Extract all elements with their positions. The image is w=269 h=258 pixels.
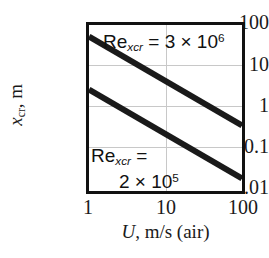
- x-tick-label-100: 100: [213, 197, 269, 217]
- annotation-re-subscript: xcr: [127, 40, 143, 53]
- annotation-re-subscript-2: xcr: [115, 154, 131, 167]
- x-tick-label-1: 1: [58, 197, 118, 217]
- annotation-re-3e6: Rexcr = 3 × 106: [103, 27, 225, 57]
- annotation-re-exponent: 6: [218, 31, 225, 44]
- annotation-re-equals: = 3 × 10: [143, 31, 218, 52]
- annotation-re-text-2: Re: [91, 145, 115, 166]
- x-tick-label-10: 10: [136, 197, 196, 217]
- plot-area: Rexcr = 3 × 106 Rexcr = 2 × 105: [86, 22, 245, 194]
- y-axis-label-symbol: x: [5, 117, 26, 125]
- x-axis-label-unit: , m/s (air): [135, 221, 209, 242]
- y-axis-label-unit: , m: [5, 84, 26, 108]
- chart-figure: 100 10 1 0.1 0.01 xcr, m Rexcr = 3 × 106…: [0, 0, 269, 258]
- y-axis-label: xcr, m: [6, 50, 32, 160]
- annotation-re-equals-2: =: [131, 145, 147, 166]
- annotation-re-exponent-2: 5: [172, 171, 179, 184]
- annotation-re-2e5-line2: 2 × 105: [119, 167, 179, 192]
- annotation-re-value-2: 2 × 10: [119, 171, 172, 192]
- y-axis-label-subscript: cr: [15, 108, 28, 117]
- x-axis-label-symbol: U: [121, 221, 135, 242]
- x-axis-label: U, m/s (air): [86, 222, 245, 242]
- annotation-re-text: Re: [103, 31, 127, 52]
